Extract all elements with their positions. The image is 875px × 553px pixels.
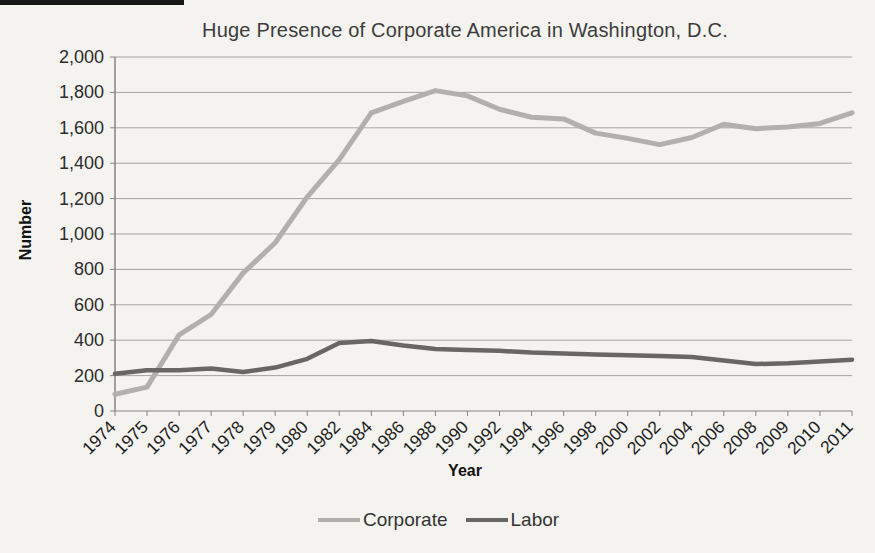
- x-tick-label: 1982: [302, 417, 344, 459]
- x-tick-label: 1974: [78, 417, 120, 459]
- scanned-chart-page: Huge Presence of Corporate America in Wa…: [0, 0, 875, 553]
- y-tick-label: 800: [74, 259, 104, 279]
- y-axis-title: Number: [17, 160, 37, 300]
- x-tick-label: 1976: [142, 417, 184, 459]
- x-tick-label: 1975: [110, 417, 152, 459]
- corporate-legend-label: Corporate: [363, 509, 448, 531]
- y-tick-label: 1,400: [59, 153, 104, 173]
- x-tick-label: 2008: [719, 417, 761, 459]
- x-tick-label: 1988: [399, 417, 441, 459]
- y-tick-label: 2,000: [59, 47, 104, 67]
- legend: Corporate Labor: [318, 509, 559, 531]
- x-tick-label: 1994: [495, 417, 537, 459]
- labor-legend-swatch: [466, 518, 508, 522]
- y-tick-label: 200: [74, 366, 104, 386]
- labor-legend-label: Labor: [511, 509, 560, 531]
- x-tick-label: 1998: [559, 417, 601, 459]
- x-tick-label: 1980: [270, 417, 312, 459]
- y-tick-label: 600: [74, 295, 104, 315]
- x-tick-label: 2011: [816, 417, 857, 458]
- x-tick-label: 1984: [335, 417, 377, 459]
- x-tick-label: 2004: [655, 417, 697, 459]
- x-axis-title: Year: [100, 462, 830, 480]
- x-tick-label: 2000: [591, 417, 633, 459]
- y-tick-label: 400: [74, 330, 104, 350]
- y-tick-label: 1,200: [59, 189, 104, 209]
- x-tick-label: 1977: [174, 417, 216, 459]
- x-tick-label: 1979: [238, 417, 280, 459]
- x-tick-label: 2010: [783, 417, 825, 459]
- legend-item-labor: Labor: [466, 509, 560, 531]
- x-tick-label: 1986: [367, 417, 409, 459]
- x-tick-label: 1996: [527, 417, 569, 459]
- x-tick-label: 1992: [463, 417, 505, 459]
- y-tick-label: 0: [94, 401, 104, 421]
- corporate-legend-swatch: [318, 518, 360, 522]
- x-tick-label: 2002: [623, 417, 665, 459]
- legend-item-corporate: Corporate: [318, 509, 448, 531]
- x-tick-label: 1990: [431, 417, 473, 459]
- labor-line-series: [115, 341, 852, 374]
- y-tick-label: 1,000: [59, 224, 104, 244]
- y-tick-label: 1,600: [59, 118, 104, 138]
- x-tick-label: 2006: [687, 417, 729, 459]
- y-tick-label: 1,800: [59, 82, 104, 102]
- x-tick-label: 2009: [751, 417, 793, 459]
- x-tick-label: 1978: [206, 417, 248, 459]
